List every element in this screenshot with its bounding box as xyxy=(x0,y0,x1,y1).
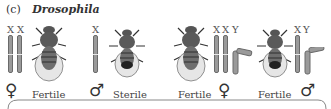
chromosome-label-x: X xyxy=(7,25,14,35)
x-chromosome xyxy=(295,35,300,73)
chromosome-label-x: X xyxy=(17,25,24,35)
x-chromosome xyxy=(223,35,228,73)
male-fly-icon xyxy=(105,26,149,78)
panel-label: (c) xyxy=(6,3,21,16)
female-fly-icon xyxy=(26,20,72,82)
x-chromosome xyxy=(17,35,22,73)
female-symbol-icon: ♀ xyxy=(218,82,230,99)
chromosome-label-x: X xyxy=(294,25,301,35)
male-symbol-icon: ♂ xyxy=(89,82,104,99)
genus-name: Drosophila xyxy=(32,3,99,16)
y-chromosome xyxy=(232,47,254,75)
figure-title: (c) Drosophila xyxy=(6,3,100,16)
y-chromosome xyxy=(304,47,326,75)
chromosome-label-x: X xyxy=(213,25,220,35)
male-fly-icon xyxy=(253,26,297,78)
chromosome-label-x: X xyxy=(92,25,99,35)
male-symbol-icon: ♂ xyxy=(300,82,315,99)
chromosome-label-y: Y xyxy=(303,25,310,35)
female-fly-icon xyxy=(168,20,214,82)
bracket-line xyxy=(0,98,331,109)
x-chromosome xyxy=(93,35,98,73)
x-chromosome xyxy=(214,35,219,73)
chromosome-label-x: X xyxy=(222,25,229,35)
chromosome-label-y: Y xyxy=(232,25,239,35)
x-chromosome xyxy=(8,35,13,73)
female-symbol-icon: ♀ xyxy=(5,82,17,99)
